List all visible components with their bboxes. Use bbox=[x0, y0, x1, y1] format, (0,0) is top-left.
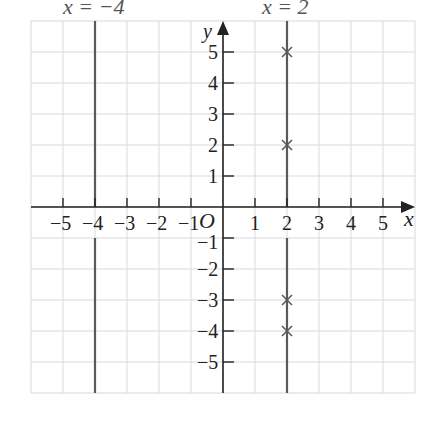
x-tick-label: 4 bbox=[346, 213, 356, 233]
y-tick-label: 3 bbox=[208, 104, 218, 124]
y-tick-label: −5 bbox=[197, 352, 218, 372]
axes bbox=[31, 21, 415, 393]
y-tick-label: 4 bbox=[208, 73, 218, 93]
y-tick-label: −1 bbox=[197, 232, 218, 252]
x-tick-label: −4 bbox=[82, 213, 103, 233]
y-tick-label: 5 bbox=[208, 42, 218, 62]
x-axis-label: x bbox=[404, 206, 414, 232]
x-tick-label: 3 bbox=[314, 213, 324, 233]
x-tick-label: 5 bbox=[378, 213, 388, 233]
line-label-x-2: x = 2 bbox=[262, 0, 309, 20]
x-tick-label: −3 bbox=[114, 213, 135, 233]
x-tick-label: −2 bbox=[146, 213, 167, 233]
y-tick-label: 1 bbox=[208, 166, 218, 186]
y-tick-label: −3 bbox=[197, 290, 218, 310]
x-tick-label: −5 bbox=[50, 213, 71, 233]
y-axis-label: y bbox=[203, 20, 212, 43]
y-tick-label: −2 bbox=[197, 259, 218, 279]
y-axis-arrow-icon bbox=[217, 21, 229, 35]
y-tick-label: −4 bbox=[197, 321, 218, 341]
x-tick-label: 1 bbox=[250, 213, 260, 233]
x-tick-label: −1 bbox=[178, 213, 199, 233]
line-label-x-neg4: x = −4 bbox=[63, 0, 124, 20]
x-tick-label: 2 bbox=[282, 213, 292, 233]
y-tick-label: 2 bbox=[208, 135, 218, 155]
